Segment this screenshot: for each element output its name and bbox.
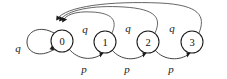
edge-label-2-3-p: p: [167, 63, 174, 75]
state-node-0[interactable]: 0: [51, 30, 73, 52]
transition-2-to-0: [59, 7, 158, 33]
transition-1-to-0-path: [63, 12, 114, 33]
edge-label-2-0-q: q: [125, 22, 131, 34]
edge-label-1-2-p: p: [123, 63, 130, 75]
transition-2-to-0-path: [60, 7, 158, 33]
self-loop-path: [27, 29, 54, 54]
state-node-3-label: 3: [189, 37, 194, 48]
transition-1-to-0: [62, 12, 114, 33]
diagram-svg: 0 1 2 3 q p p p q q q: [0, 0, 227, 79]
transition-0-to-0-self-loop: [27, 29, 55, 54]
state-diagram-canvas: 0 1 2 3 q p p p q q q: [0, 0, 227, 79]
edge-label-3-0-q: q: [169, 22, 175, 34]
transition-1-to-2-path: [112, 50, 145, 59]
state-node-3[interactable]: 3: [181, 31, 203, 53]
transition-2-to-3-path: [155, 50, 189, 59]
edge-label-1-0-q: q: [82, 23, 88, 35]
transition-2-to-3: [155, 50, 190, 59]
state-node-1[interactable]: 1: [94, 31, 116, 53]
state-node-0-label: 0: [59, 36, 64, 47]
state-node-2[interactable]: 2: [137, 31, 159, 53]
state-node-2-label: 2: [145, 37, 150, 48]
transition-0-to-1-path: [69, 49, 102, 58]
state-node-1-label: 1: [102, 37, 107, 48]
edge-label-0-1-p: p: [80, 63, 87, 75]
edge-label-self-loop-q: q: [15, 42, 21, 54]
